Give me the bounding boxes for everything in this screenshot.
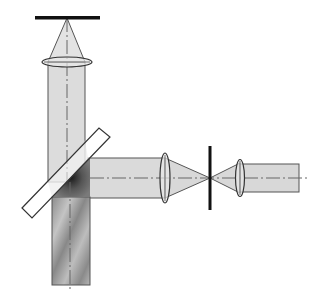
sample-plane-bar	[35, 16, 100, 20]
optical-diagram	[0, 0, 325, 297]
lower-beam	[52, 197, 90, 285]
optical-axis	[67, 18, 307, 292]
pinhole-aperture	[209, 146, 212, 210]
optical-diagram-svg	[0, 0, 325, 297]
